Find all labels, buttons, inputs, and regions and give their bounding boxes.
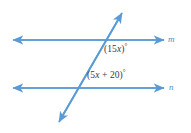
angle-bottom-operator: + xyxy=(99,70,109,80)
degree-icon: ° xyxy=(123,68,126,76)
geometry-figure: (15x)° (5x + 20)° m n xyxy=(0,0,191,133)
diagram-canvas xyxy=(0,0,191,133)
line-label-m: m xyxy=(168,35,175,44)
transversal-line-down xyxy=(59,15,121,122)
line-label-n: n xyxy=(169,83,174,92)
degree-icon: ° xyxy=(125,42,128,50)
angle-label-top: (15x)° xyxy=(104,45,127,55)
angle-bottom-constant: 20 xyxy=(110,70,120,80)
angle-label-bottom: (5x + 20)° xyxy=(87,71,126,81)
angle-top-coefficient: 15 xyxy=(107,44,117,54)
